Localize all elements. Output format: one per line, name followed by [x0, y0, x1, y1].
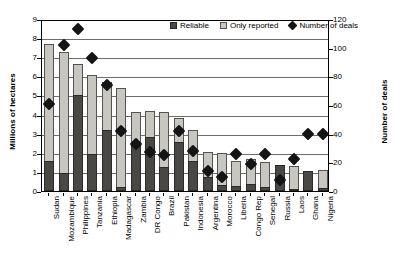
y-tick-label-left: 8 — [17, 35, 37, 43]
bar-segment-reliable[interactable] — [73, 95, 83, 192]
bar-group[interactable] — [287, 20, 301, 191]
bar-segment-only-reported[interactable] — [116, 88, 126, 187]
bar-group[interactable] — [229, 20, 243, 191]
bar-group[interactable] — [301, 20, 315, 191]
y-tick-label-left: 5 — [17, 92, 37, 100]
x-axis-label-slot: Liberia — [228, 194, 242, 272]
bar-group[interactable] — [186, 20, 200, 191]
stacked-bar[interactable] — [188, 130, 198, 191]
bar-segment-reliable[interactable] — [188, 161, 198, 191]
legend-label-reliable: Reliable — [180, 21, 209, 30]
x-axis-label-slot: Sudan — [41, 194, 55, 272]
legend-item-number-of-deals: Number of deals — [289, 21, 358, 30]
y-tick-label-left: 1 — [17, 169, 37, 177]
bar-segment-reliable[interactable] — [231, 186, 241, 191]
x-tick-mark — [106, 193, 107, 196]
bar-segment-reliable[interactable] — [289, 189, 299, 191]
bar-segment-reliable[interactable] — [59, 173, 69, 191]
bar-group[interactable] — [100, 20, 114, 191]
bar-segment-only-reported[interactable] — [318, 170, 328, 188]
x-tick-mark — [48, 193, 49, 196]
bar-segment-reliable[interactable] — [303, 171, 313, 191]
y-tick-label-left: 3 — [17, 131, 37, 139]
x-axis-label-slot: Congo Rep — [243, 194, 257, 272]
x-axis-label-slot: Philippines — [70, 194, 84, 272]
bar-group[interactable] — [258, 20, 272, 191]
stacked-bar[interactable] — [59, 52, 69, 191]
legend-item-only-reported: Only reported — [220, 21, 278, 30]
legend-label-only-reported: Only reported — [230, 21, 278, 30]
bar-group[interactable] — [316, 20, 330, 191]
bar-segment-reliable[interactable] — [246, 184, 256, 191]
x-tick-mark — [192, 193, 193, 196]
bar-group[interactable] — [215, 20, 229, 191]
bar-group[interactable] — [85, 20, 99, 191]
x-tick-mark — [120, 193, 121, 196]
legend-item-reliable: Reliable — [170, 21, 209, 30]
land-deals-chart: Millions of hectares Number of deals 012… — [0, 0, 405, 274]
stacked-bar[interactable] — [73, 64, 83, 191]
bar-segment-reliable[interactable] — [203, 177, 213, 191]
stacked-bar[interactable] — [260, 162, 270, 191]
bar-segment-only-reported[interactable] — [87, 75, 97, 153]
x-axis-label-slot: Tanzania — [84, 194, 98, 272]
stacked-bar[interactable] — [303, 171, 313, 191]
x-tick-mark — [279, 193, 280, 196]
y-tick-label-right: 80 — [333, 73, 357, 81]
stacked-bar[interactable] — [231, 161, 241, 191]
bar-segment-reliable[interactable] — [44, 161, 54, 191]
bar-segment-reliable[interactable] — [116, 187, 126, 191]
stacked-bar[interactable] — [289, 166, 299, 191]
y-tick-label-left: 2 — [17, 150, 37, 158]
bar-segment-reliable[interactable] — [102, 130, 112, 191]
x-tick-mark — [77, 193, 78, 196]
bar-group[interactable] — [114, 20, 128, 191]
bar-group[interactable] — [157, 20, 171, 191]
x-axis-label-slot: Pakistan — [171, 194, 185, 272]
stacked-bar[interactable] — [87, 75, 97, 191]
bar-segment-only-reported[interactable] — [289, 166, 299, 189]
bar-segment-only-reported[interactable] — [73, 64, 83, 95]
bar-segment-reliable[interactable] — [131, 145, 141, 191]
x-tick-mark — [135, 193, 136, 196]
x-axis-label: Nigeria — [326, 196, 335, 221]
x-axis-label-slot: Nigeria — [315, 194, 329, 272]
x-axis-label-slot: Ghana — [300, 194, 314, 272]
x-axis-label-slot: Madagascar — [113, 194, 127, 272]
bar-segment-reliable[interactable] — [159, 167, 169, 191]
bar-segment-only-reported[interactable] — [59, 52, 69, 172]
x-tick-mark — [235, 193, 236, 196]
bar-group[interactable] — [143, 20, 157, 191]
bar-segment-reliable[interactable] — [260, 187, 270, 191]
bar-group[interactable] — [128, 20, 142, 191]
y-tick-label-right: 20 — [333, 159, 357, 167]
y-tick-label-right: 0 — [333, 188, 357, 196]
stacked-bar[interactable] — [318, 170, 328, 191]
x-tick-mark — [264, 193, 265, 196]
bar-segment-reliable[interactable] — [217, 185, 227, 191]
stacked-bar[interactable] — [44, 44, 54, 191]
stacked-bar[interactable] — [116, 88, 126, 191]
y-tick-label-left: 6 — [17, 73, 37, 81]
bar-group[interactable] — [71, 20, 85, 191]
stacked-bar[interactable] — [102, 82, 112, 191]
x-tick-mark — [293, 193, 294, 196]
y-tick-label-left: 9 — [17, 16, 37, 24]
bar-segment-only-reported[interactable] — [260, 162, 270, 187]
x-axis-label-slot: Argentina — [199, 194, 213, 272]
x-tick-mark — [221, 193, 222, 196]
y-tick-label-right: 100 — [333, 45, 357, 53]
diamond-icon — [288, 21, 298, 31]
bar-segment-only-reported[interactable] — [231, 161, 241, 186]
bar-segment-reliable[interactable] — [174, 142, 184, 191]
x-tick-mark — [63, 193, 64, 196]
bar-group[interactable] — [272, 20, 286, 191]
bar-group[interactable] — [172, 20, 186, 191]
bar-segment-only-reported[interactable] — [145, 111, 155, 137]
bar-segment-reliable[interactable] — [87, 154, 97, 191]
y-tick-mark-left — [37, 192, 41, 193]
y-axis-right-ticks: 020406080100120 — [333, 20, 359, 192]
x-axis-label-slot: DR Congo — [142, 194, 156, 272]
stacked-bar[interactable] — [131, 112, 141, 191]
bar-segment-reliable[interactable] — [318, 188, 328, 191]
